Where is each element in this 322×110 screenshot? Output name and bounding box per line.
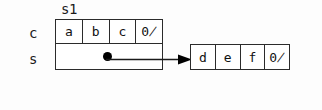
target-array-row: d e f 0̸ [190,44,290,70]
char-array-cell: c [110,20,137,43]
char-array-cell: b [83,20,110,43]
char-array-row: a b c 0̸ [55,19,163,44]
target-array-cell: f [241,45,266,69]
target-array-cell: e [216,45,241,69]
row-label-pointer: s [29,52,37,66]
memory-diagram: c s s1 a b c 0̸ d e f 0̸ [0,0,322,110]
target-array-cell: d [191,45,216,69]
struct-name-label: s1 [61,2,77,16]
row-label-char-array: c [29,26,37,40]
char-array-cell: 0̸ [136,20,162,43]
target-array-cell: 0̸ [265,45,289,69]
pointer-arrow-icon [106,53,192,67]
char-array-cell: a [56,20,83,43]
